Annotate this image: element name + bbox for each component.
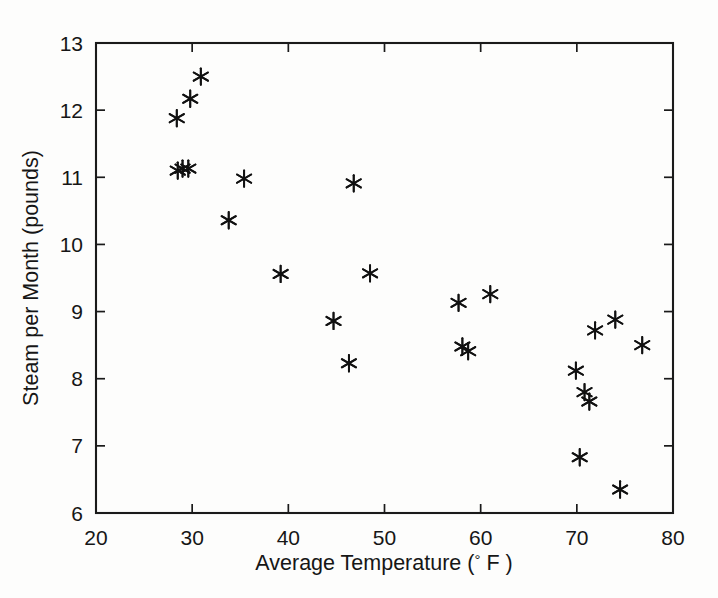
- x-axis-tick-labels: 20304050607080: [84, 526, 684, 549]
- data-point: [326, 313, 340, 329]
- x-axis-title: Average Temperature (° F ): [255, 551, 512, 575]
- y-tick-label: 8: [71, 367, 83, 390]
- y-tick-label: 10: [60, 233, 83, 256]
- x-title-unit: F ): [480, 551, 512, 575]
- data-point: [194, 68, 208, 84]
- data-point: [237, 170, 251, 186]
- x-tick-label: 70: [565, 526, 588, 549]
- data-point: [608, 311, 622, 327]
- y-tick-label: 11: [61, 166, 83, 189]
- y-axis-title: Steam per Month (pounds): [19, 150, 43, 406]
- y-tick-label: 9: [71, 300, 83, 323]
- axes-frame: [96, 43, 673, 513]
- x-title-text: Average Temperature: [255, 551, 467, 575]
- data-point: [635, 337, 649, 353]
- y-axis-title-group: Steam per Month (pounds): [19, 150, 43, 406]
- data-point: [613, 481, 627, 497]
- data-point: [363, 265, 377, 281]
- data-point: [342, 355, 356, 371]
- y-tick-label: 13: [60, 32, 83, 55]
- data-point: [222, 212, 236, 228]
- y-tick-label: 6: [71, 502, 83, 525]
- y-tick-label: 7: [71, 434, 83, 457]
- x-tick-label: 30: [180, 526, 203, 549]
- data-point-markers: [170, 68, 650, 497]
- data-point: [569, 362, 583, 378]
- data-point: [274, 266, 288, 282]
- data-point: [588, 322, 602, 338]
- plot-canvas: 20304050607080 678910111213 Average Temp…: [0, 0, 718, 598]
- data-point: [170, 110, 184, 126]
- x-tick-label: 80: [661, 526, 684, 549]
- data-point: [483, 286, 497, 302]
- y-tick-label: 12: [60, 99, 83, 122]
- y-axis-tick-labels: 678910111213: [60, 32, 83, 525]
- x-axis-ticks: [192, 43, 577, 513]
- plot-frame: [96, 43, 673, 513]
- data-point: [451, 295, 465, 311]
- data-point: [347, 175, 361, 191]
- data-point: [573, 449, 587, 465]
- x-tick-label: 40: [277, 526, 300, 549]
- x-axis-title-group: Average Temperature (° F ): [255, 551, 512, 575]
- x-tick-label: 60: [469, 526, 492, 549]
- data-point: [183, 91, 197, 107]
- scatter-plot-figure: 20304050607080 678910111213 Average Temp…: [0, 0, 718, 598]
- x-tick-label: 20: [84, 526, 107, 549]
- x-tick-label: 50: [373, 526, 396, 549]
